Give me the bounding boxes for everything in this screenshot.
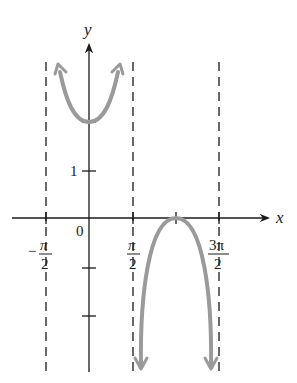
svg-text:2: 2 [129, 256, 137, 272]
svg-text:2: 2 [41, 256, 49, 272]
ticks [46, 122, 219, 316]
branch-lower [141, 218, 211, 365]
svg-text:−: − [28, 243, 36, 259]
y-tick-label-1: 1 [70, 163, 78, 179]
svg-text:π: π [128, 237, 136, 253]
svg-text:2: 2 [214, 256, 222, 272]
svg-text:3π: 3π [209, 237, 225, 253]
y-axis-label: y [82, 20, 92, 39]
origin-label: 0 [76, 223, 84, 239]
curve-arrows [55, 64, 217, 369]
x-axis-label: x [275, 208, 284, 227]
x-tick-label-neg-half-pi: − π 2 [28, 237, 52, 272]
graph: y x 1 0 − π 2 π 2 3π 2 [0, 0, 297, 383]
x-tick-label-three-half-pi: 3π 2 [208, 237, 229, 272]
x-tick-label-half-pi: π 2 [127, 237, 140, 272]
svg-text:π: π [40, 237, 48, 253]
